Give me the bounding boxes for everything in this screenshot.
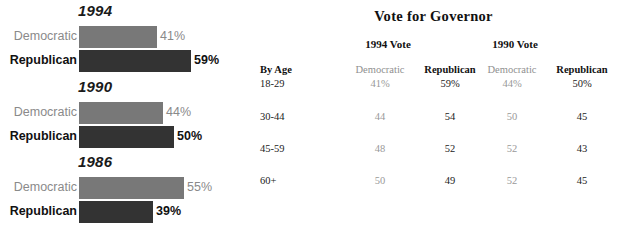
table-title: Vote for Governor: [250, 8, 617, 25]
table-row-label: 18-29: [260, 78, 285, 89]
bar-label-republican: Republican: [10, 129, 77, 143]
table-row: 45-5948525243: [250, 143, 617, 159]
bar-label-republican: Republican: [10, 53, 77, 67]
bar-row-1990-democratic: Democratic44%: [0, 102, 250, 124]
bar-value-label: 50%: [177, 129, 202, 143]
governor-vote-bar-chart: 1994Democratic41%Republican59%1990Democr…: [0, 0, 250, 229]
table-row: 60+50495245: [250, 175, 617, 191]
bar-track: [79, 50, 191, 72]
bar-row-1986-democratic: Democratic55%: [0, 177, 250, 199]
table-row-label: 45-59: [260, 143, 285, 154]
table-cell: 50: [472, 111, 552, 122]
table-column-header-1990-republican: Republican: [542, 64, 617, 75]
vote-for-governor-table: Vote for Governor 1994 Vote 1990 Vote By…: [250, 0, 617, 229]
bar-row-1994-republican: Republican59%: [0, 50, 250, 72]
bar-fill-democratic: [79, 177, 184, 199]
bar-row-1986-republican: Republican39%: [0, 201, 250, 223]
table-year-header-1994: 1994 Vote: [328, 38, 448, 50]
bar-fill-democratic: [79, 102, 163, 124]
bar-group-year-label: 1986: [78, 153, 112, 170]
table-row: 18-2941%59%44%50%: [250, 78, 617, 94]
bar-label-democratic: Democratic: [14, 180, 77, 194]
table-cell: 45: [542, 175, 617, 186]
bar-track: [79, 26, 157, 48]
table-cell: 44%: [472, 78, 552, 89]
bar-row-1994-democratic: Democratic41%: [0, 26, 250, 48]
table-cell: 52: [472, 143, 552, 154]
bar-fill-republican: [79, 201, 153, 223]
bar-track: [79, 177, 184, 199]
bar-value-label: 39%: [156, 204, 181, 218]
table-cell: 52: [472, 175, 552, 186]
bar-group-year-label: 1994: [78, 2, 112, 19]
table-cell: 41%: [340, 78, 420, 89]
table-row-header-label: By Age: [260, 64, 292, 75]
bar-label-republican: Republican: [10, 204, 77, 218]
table-cell: 48: [340, 143, 420, 154]
table-column-header-1990-democratic: Democratic: [472, 64, 552, 75]
table-year-header-1990: 1990 Vote: [455, 38, 575, 50]
bar-fill-republican: [79, 50, 191, 72]
table-cell: 50%: [542, 78, 617, 89]
table-row-label: 30-44: [260, 111, 285, 122]
table-cell: 43: [542, 143, 617, 154]
bar-track: [79, 126, 174, 148]
bar-value-label: 55%: [187, 180, 212, 194]
table-row: 30-4444545045: [250, 111, 617, 127]
bar-group-year-label: 1990: [78, 78, 112, 95]
bar-row-1990-republican: Republican50%: [0, 126, 250, 148]
table-cell: 44: [340, 111, 420, 122]
table-row-label: 60+: [260, 175, 276, 186]
table-column-header-1994-democratic: Democratic: [340, 64, 420, 75]
bar-label-democratic: Democratic: [14, 105, 77, 119]
bar-value-label: 41%: [160, 29, 185, 43]
bar-value-label: 44%: [166, 105, 191, 119]
bar-track: [79, 201, 153, 223]
bar-fill-democratic: [79, 26, 157, 48]
bar-fill-republican: [79, 126, 174, 148]
table-cell: 50: [340, 175, 420, 186]
table-cell: 45: [542, 111, 617, 122]
bar-label-democratic: Democratic: [14, 29, 77, 43]
bar-track: [79, 102, 163, 124]
bar-value-label: 59%: [194, 53, 219, 67]
